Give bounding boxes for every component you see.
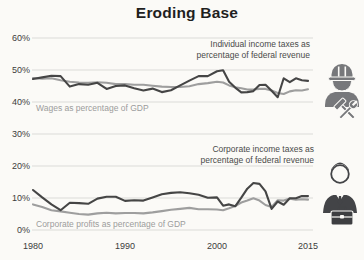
construction-worker-icon: [322, 58, 362, 132]
series-line-corporate-profits: [33, 198, 308, 214]
annotation-corporate-profits: Corporate profits as percentage of GDP: [36, 219, 186, 230]
hard-hat-brim: [329, 77, 356, 81]
x-axis-tick-label: 1980: [23, 241, 43, 251]
annotation-wages: Wages as percentage of GDP: [36, 103, 149, 114]
y-axis-tick-label: 30%: [12, 129, 30, 139]
y-axis-tick-label: 10%: [12, 193, 30, 203]
annotation-individual-income-taxes: Individual income taxes as percentage of…: [197, 39, 310, 61]
x-axis-tick-label: 2015: [298, 241, 318, 251]
businessperson-face: [331, 165, 349, 183]
y-axis-tick-label: 40%: [12, 97, 30, 107]
y-axis-tick-label: 60%: [12, 33, 30, 43]
y-axis-tick-label: 0%: [17, 225, 30, 235]
worker-hard-hat: [332, 64, 353, 78]
chart-card: Eroding Base 0%10%20%30%40%50%60%1980199…: [0, 0, 364, 260]
annotation-corporate-income-taxes: Corporate income taxes as percentage of …: [201, 144, 314, 166]
businessperson-briefcase-icon: [320, 155, 362, 231]
x-axis-tick-label: 2000: [207, 241, 227, 251]
y-axis-tick-label: 50%: [12, 65, 30, 75]
hard-hat-rib: [345, 67, 347, 77]
hard-hat-rib: [338, 67, 340, 77]
y-axis-tick-label: 20%: [12, 161, 30, 171]
x-axis-tick-label: 1990: [115, 241, 135, 251]
series-line-individual-income-taxes: [33, 70, 308, 97]
